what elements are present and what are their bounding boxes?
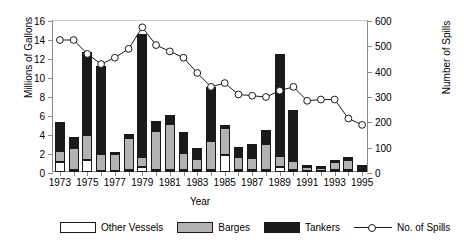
x-tick-label: 1987 (241, 177, 263, 188)
oil-spill-chart: Millions of Gallons Number of Spills Yea… (0, 0, 464, 248)
spills-marker-1987 (249, 92, 256, 99)
y-tick-label-left: 8 (39, 97, 45, 98)
legend-item-barges[interactable]: Barges (177, 222, 250, 233)
x-tick-label: 1985 (214, 177, 236, 188)
y-tick-label-left: 10 (34, 78, 45, 79)
legend-label: Barges (218, 222, 250, 233)
spills-marker-1989 (276, 87, 283, 94)
y-tick-label-right: 0 (375, 173, 381, 174)
y-tick-label-right: 100 (375, 148, 392, 149)
y-tick-right (367, 173, 372, 174)
spills-marker-1983 (194, 70, 201, 77)
x-tick-label: 1981 (159, 177, 181, 188)
y-tick-left (48, 173, 53, 174)
spills-marker-1993 (331, 96, 338, 103)
legend-label: Tankers (305, 222, 340, 233)
y-axis-label-left: Millions of Gallons (23, 0, 34, 138)
chart-legend: Other VesselsBargesTankersNo. of Spills (60, 222, 450, 233)
legend-swatch-tankers (264, 222, 300, 233)
legend-line-marker-icon (354, 222, 392, 233)
spills-marker-1990 (290, 83, 297, 90)
legend-item-other[interactable]: Other Vessels (60, 222, 163, 233)
y-tick-label-right: 300 (375, 97, 392, 98)
x-tick-label: 1995 (351, 177, 373, 188)
x-tick-label: 1979 (131, 177, 153, 188)
x-tick-label: 1975 (76, 177, 98, 188)
spills-marker-1973 (56, 37, 63, 44)
spills-marker-1988 (263, 94, 270, 101)
legend-label: No. of Spills (397, 222, 450, 233)
y-tick-label-right: 600 (375, 21, 392, 22)
spills-marker-1981 (166, 48, 173, 55)
y-tick-label-right: 500 (375, 46, 392, 47)
spills-marker-1979 (139, 24, 146, 31)
y-tick-label-left: 12 (34, 59, 45, 60)
x-tick-label: 1973 (49, 177, 71, 188)
spills-marker-1976 (98, 61, 105, 68)
spills-marker-1991 (304, 97, 311, 104)
spills-marker-1984 (208, 83, 215, 90)
spills-marker-1978 (125, 45, 132, 52)
legend-swatch-other (60, 222, 96, 233)
spills-marker-1977 (111, 54, 118, 61)
y-axis-label-right: Number of Spills (441, 0, 452, 138)
y-tick-label-left: 14 (34, 40, 45, 41)
x-tick-label: 1983 (186, 177, 208, 188)
y-tick-label-left: 4 (39, 135, 45, 136)
x-tick-label: 1993 (324, 177, 346, 188)
plot-area: 0246810121416 0100200300400500600 197319… (52, 20, 368, 172)
x-tick-label: 1977 (104, 177, 126, 188)
spills-marker-1980 (153, 42, 160, 49)
legend-item-line[interactable]: No. of Spills (354, 222, 450, 233)
legend-swatch-barges (177, 222, 213, 233)
y-tick-label-right: 400 (375, 72, 392, 73)
spills-marker-1995 (359, 121, 366, 128)
x-tick-label: 1991 (296, 177, 318, 188)
y-tick-label-left: 0 (39, 173, 45, 174)
y-tick-label-left: 16 (34, 21, 45, 22)
spills-line-series (53, 21, 369, 173)
spills-marker-1975 (84, 51, 91, 58)
legend-item-tankers[interactable]: Tankers (264, 222, 340, 233)
legend-label: Other Vessels (101, 222, 163, 233)
spills-marker-1986 (235, 91, 242, 98)
x-tick-label: 1989 (269, 177, 291, 188)
spills-marker-1985 (221, 80, 228, 87)
spills-marker-1974 (70, 37, 77, 44)
y-tick-label-right: 200 (375, 122, 392, 123)
spills-marker-1994 (345, 115, 352, 122)
spills-marker-1982 (180, 54, 187, 61)
x-axis-label: Year (0, 196, 400, 207)
y-tick-label-left: 6 (39, 116, 45, 117)
spills-line-path (60, 27, 362, 125)
spills-marker-1992 (318, 96, 325, 103)
y-tick-label-left: 2 (39, 154, 45, 155)
